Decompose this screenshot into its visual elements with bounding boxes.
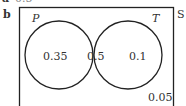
region-p-only: 0.35: [43, 50, 68, 63]
region-t-only: 0.1: [129, 50, 147, 63]
region-outside: 0.05: [148, 91, 173, 104]
region-both: 0.5: [87, 50, 105, 63]
universe-label: S: [177, 8, 185, 21]
set-p-label: P: [32, 12, 39, 25]
set-t-label: T: [152, 12, 159, 25]
